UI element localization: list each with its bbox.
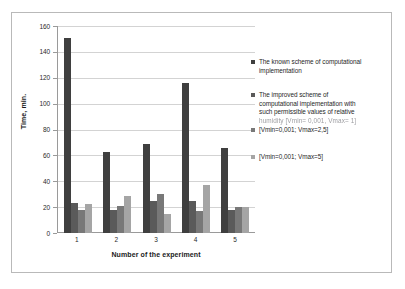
x-axis-tick-label: 4: [176, 236, 216, 246]
legend-label: The known scheme of computationalimpleme…: [259, 58, 392, 75]
bar: [117, 206, 124, 233]
bars-layer: [58, 26, 255, 233]
legend-label-obscured: humidity [Vmin= 0,001, Vmax= 1]: [259, 117, 392, 126]
y-axis-tick-label: 60: [26, 152, 50, 159]
legend-label: [Vmin=0,001; Vmax=2,5]: [259, 126, 392, 135]
bar: [196, 211, 203, 233]
legend-label: The improved scheme ofcomputational impl…: [259, 91, 392, 125]
legend-swatch-icon: [251, 60, 255, 64]
chart-legend: The known scheme of computationalimpleme…: [250, 58, 392, 162]
legend-label: [Vmin=0,001; Vmax=5]: [259, 153, 392, 162]
x-axis-title: Number of the experiment: [57, 251, 255, 258]
y-axis-tick-label: 120: [26, 74, 50, 81]
bar-group: [176, 26, 215, 233]
bar: [64, 38, 71, 233]
legend-entry[interactable]: The improved scheme ofcomputational impl…: [250, 91, 392, 125]
y-axis-tick-label: 160: [26, 23, 50, 30]
bar-group: [137, 26, 176, 233]
y-axis-tick-label: 20: [26, 204, 50, 211]
figure-frame: 160140120100806040200 Time, min. 12345 N…: [11, 12, 392, 273]
y-axis-tick-mark: [53, 26, 57, 27]
y-axis-tick-labels: 160140120100806040200: [26, 26, 53, 233]
legend-swatch-icon: [251, 128, 255, 132]
bar-group: [97, 26, 136, 233]
legend-entry[interactable]: [Vmin=0,001; Vmax=2,5]: [250, 126, 392, 135]
bar: [110, 210, 117, 233]
y-axis-tick-label: 140: [26, 48, 50, 55]
bar-group: [58, 26, 97, 233]
y-axis-tick-mark: [53, 130, 57, 131]
bar: [71, 203, 78, 233]
bar: [157, 194, 164, 233]
bar: [189, 201, 196, 233]
bar: [143, 144, 150, 233]
legend-swatch-icon: [251, 155, 255, 159]
bar: [221, 148, 228, 233]
bar: [228, 210, 235, 233]
y-axis-tick-mark: [53, 104, 57, 105]
y-axis-tick-label: 40: [26, 178, 50, 185]
y-axis-tick-mark: [53, 181, 57, 182]
y-axis-tick-label: 0: [26, 230, 50, 237]
x-axis-tick-label: 2: [97, 236, 137, 246]
bar: [203, 185, 210, 233]
legend-swatch-icon: [251, 93, 255, 97]
bar: [78, 210, 85, 233]
bar: [235, 207, 242, 233]
bar-chart: 160140120100806040200 Time, min. 12345 N…: [12, 13, 393, 274]
x-axis-tick-label: 5: [215, 236, 255, 246]
bar: [182, 83, 189, 233]
y-axis-tick-mark: [53, 207, 57, 208]
y-axis-tick-mark: [53, 78, 57, 79]
bar: [242, 207, 249, 233]
bar: [150, 201, 157, 233]
legend-entry[interactable]: [Vmin=0,001; Vmax=5]: [250, 153, 392, 162]
y-axis-tick-mark: [53, 233, 57, 234]
x-axis-tick-label: 1: [57, 236, 97, 246]
y-axis-tick-label: 80: [26, 126, 50, 133]
y-axis-tick-mark: [53, 52, 57, 53]
y-axis-tick-mark: [53, 155, 57, 156]
legend-entry[interactable]: The known scheme of computationalimpleme…: [250, 58, 392, 75]
x-axis-tick-labels: 12345: [57, 236, 255, 246]
bar: [85, 204, 92, 233]
x-axis-tick-label: 3: [136, 236, 176, 246]
bar: [103, 152, 110, 234]
y-axis-tick-label: 100: [26, 100, 50, 107]
bar: [124, 196, 131, 233]
bar: [164, 214, 171, 233]
y-axis-title: Time, min.: [20, 82, 27, 142]
